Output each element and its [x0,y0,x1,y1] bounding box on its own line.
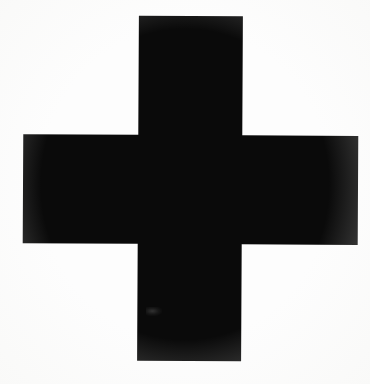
image-canvas [0,0,370,384]
cross-figure [0,0,370,384]
